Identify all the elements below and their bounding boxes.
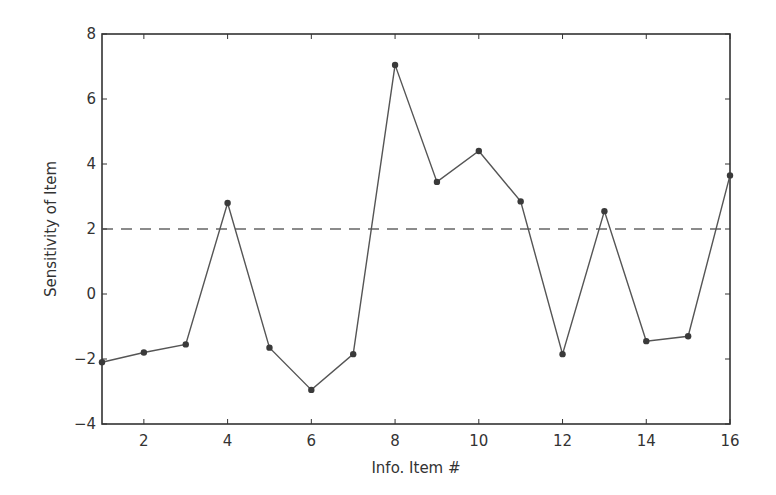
data-point-marker <box>685 333 691 339</box>
data-point-marker <box>224 200 230 206</box>
data-point-marker <box>727 172 733 178</box>
data-point-marker <box>141 349 147 355</box>
series-line <box>102 65 730 390</box>
y-axis-ticks: −4−202468 <box>74 25 730 433</box>
data-point-marker <box>308 387 314 393</box>
y-tick-label: 6 <box>86 90 96 108</box>
x-tick-label: 14 <box>637 432 656 450</box>
x-tick-label: 8 <box>390 432 400 450</box>
data-point-marker <box>643 338 649 344</box>
y-axis-label: Sensitivity of Item <box>42 161 60 297</box>
data-point-marker <box>517 198 523 204</box>
y-tick-label: 4 <box>86 155 96 173</box>
x-tick-label: 4 <box>223 432 233 450</box>
data-point-marker <box>99 359 105 365</box>
data-point-marker <box>392 62 398 68</box>
x-axis-ticks: 246810121416 <box>139 34 739 450</box>
x-tick-label: 16 <box>720 432 739 450</box>
y-tick-label: −4 <box>74 415 96 433</box>
y-tick-label: −2 <box>74 350 96 368</box>
y-tick-label: 0 <box>86 285 96 303</box>
data-point-marker <box>350 351 356 357</box>
x-tick-label: 12 <box>553 432 572 450</box>
x-axis-label: Info. Item # <box>371 459 460 477</box>
data-point-marker <box>266 344 272 350</box>
data-point-marker <box>601 208 607 214</box>
data-point-marker <box>559 351 565 357</box>
line-chart: 246810121416 −4−202468 Info. Item # Sens… <box>0 0 776 495</box>
y-tick-label: 2 <box>86 220 96 238</box>
y-tick-label: 8 <box>86 25 96 43</box>
x-tick-label: 10 <box>469 432 488 450</box>
data-point-marker <box>434 179 440 185</box>
x-tick-label: 6 <box>307 432 317 450</box>
data-point-marker <box>183 341 189 347</box>
data-series <box>99 62 733 393</box>
x-tick-label: 2 <box>139 432 149 450</box>
data-point-marker <box>476 148 482 154</box>
